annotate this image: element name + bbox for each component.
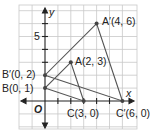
origin-label: O (34, 103, 42, 115)
label-a-prime: A′(4, 6) (102, 15, 135, 27)
x-axis-arrow-left (21, 99, 26, 104)
x-axis-arrow-right (129, 99, 134, 104)
label-b: B(0, 1) (2, 82, 34, 94)
coordinate-plane: y x O 5 A′(4, 6) A(2, 3) B′(0, 2) B(0, 1… (0, 0, 157, 136)
label-c-prime: C′(6, 0) (116, 107, 150, 119)
y-tick-label-5: 5 (34, 30, 40, 42)
point-a-prime (95, 22, 99, 26)
point-b (43, 86, 47, 90)
label-c: C(3, 0) (67, 107, 99, 119)
x-axis-label: x (125, 87, 132, 99)
label-b-prime: B′(0, 2) (2, 68, 35, 80)
y-axis-arrow-down (43, 123, 48, 128)
y-axis-arrow-up (43, 8, 48, 13)
point-c-prime (120, 99, 124, 103)
point-c (82, 99, 86, 103)
y-axis-label: y (48, 6, 55, 18)
point-a (69, 60, 73, 64)
point-b-prime (43, 73, 47, 77)
label-a: A(2, 3) (75, 55, 107, 67)
